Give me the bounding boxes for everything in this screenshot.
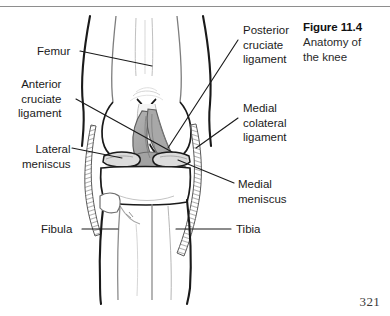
label-medial-colateral-ligament: Medial colateral ligament <box>243 101 286 145</box>
leader-femur <box>80 51 152 66</box>
figure-number: Figure 11.4 <box>303 20 387 35</box>
label-medial-meniscus: Medial meniscus <box>238 177 287 206</box>
label-acl-line1: Anterior <box>18 77 61 92</box>
label-acl-line3: ligament <box>18 106 61 121</box>
label-femur: Femur <box>37 44 70 59</box>
label-pcl-line3: ligament <box>243 52 289 67</box>
label-medial-meniscus-line2: meniscus <box>238 192 287 207</box>
label-lateral-meniscus: Lateral meniscus <box>22 142 71 171</box>
label-fibula-text: Fibula <box>41 223 72 235</box>
label-lateral-meniscus-line1: Lateral <box>22 142 71 157</box>
leader-posterior-cruciate-ligament <box>168 40 238 148</box>
label-femur-text: Femur <box>37 45 70 57</box>
label-anterior-cruciate-ligament: Anterior cruciate ligament <box>18 77 61 121</box>
label-medial-meniscus-line1: Medial <box>238 177 287 192</box>
label-acl-line2: cruciate <box>18 92 61 107</box>
label-pcl-line1: Posterior <box>243 23 289 38</box>
knee-drawing-group <box>72 16 238 304</box>
tibia-and-fibula-bones <box>100 167 191 305</box>
figure-page: Femur Anterior cruciate ligament Lateral… <box>0 0 390 316</box>
figure-caption: Figure 11.4 Anatomy of the knee <box>303 20 387 65</box>
label-fibula: Fibula <box>41 222 72 237</box>
label-posterior-cruciate-ligament: Posterior cruciate ligament <box>243 23 289 67</box>
figure-caption-line1: Anatomy of <box>303 35 387 50</box>
label-lateral-meniscus-line2: meniscus <box>22 157 71 172</box>
label-tibia-text: Tibia <box>236 223 261 235</box>
label-mcl-line3: ligament <box>243 130 286 145</box>
label-mcl-line1: Medial <box>243 101 286 116</box>
label-tibia: Tibia <box>236 222 261 237</box>
page-number: 321 <box>360 294 380 310</box>
label-mcl-line2: colateral <box>243 116 286 131</box>
leader-medial-colateral-ligament <box>196 118 238 148</box>
label-pcl-line2: cruciate <box>243 38 289 53</box>
figure-caption-line2: the knee <box>303 50 387 65</box>
